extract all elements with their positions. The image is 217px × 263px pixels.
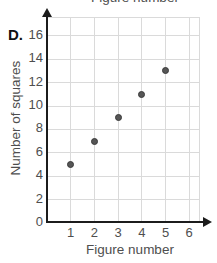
y-tick-label: 8: [16, 121, 43, 135]
data-point: [67, 161, 74, 168]
gridline-vertical: [94, 18, 95, 222]
y-axis-arrow-icon: [42, 8, 52, 17]
data-point: [138, 91, 145, 98]
y-tick-label: 14: [16, 51, 43, 65]
x-axis-label: Figure number: [55, 242, 205, 257]
gridline-vertical: [141, 18, 142, 222]
x-tick-label: 6: [178, 226, 200, 240]
x-axis-arrow-icon: [203, 217, 212, 227]
gridline-horizontal: [47, 82, 199, 83]
y-tick-label: 6: [16, 145, 43, 159]
x-axis-line: [46, 221, 204, 223]
gridline-horizontal: [47, 176, 199, 177]
gridline-vertical: [189, 18, 190, 222]
data-point: [91, 138, 98, 145]
gridline-horizontal: [47, 59, 199, 60]
scatter-plot-figure: Figure number D. Number of squares Figur…: [0, 0, 217, 263]
gridline-horizontal: [47, 106, 199, 107]
gridline-horizontal: [47, 35, 199, 36]
data-point: [115, 114, 122, 121]
x-tick-label: 2: [83, 226, 105, 240]
y-tick-label: 16: [16, 28, 43, 42]
x-tick-label: 4: [131, 226, 153, 240]
y-axis-line: [46, 13, 48, 223]
data-point: [162, 67, 169, 74]
x-tick-label: 1: [60, 226, 82, 240]
y-tick-label: 0: [16, 215, 43, 229]
y-tick-label: 10: [16, 98, 43, 112]
y-tick-label: 12: [16, 75, 43, 89]
gridline-horizontal: [47, 129, 199, 130]
gridline-horizontal: [47, 199, 199, 200]
gridline-vertical: [165, 18, 166, 222]
cropped-title-above: Figure number: [55, 0, 215, 6]
x-tick-label: 3: [107, 226, 129, 240]
y-tick-label: 4: [16, 168, 43, 182]
plot-area: [47, 17, 200, 222]
cropped-title-text: Figure number: [55, 0, 215, 5]
gridline-horizontal: [47, 152, 199, 153]
x-tick-label: 5: [155, 226, 177, 240]
gridline-vertical: [70, 18, 71, 222]
y-tick-label: 2: [16, 192, 43, 206]
